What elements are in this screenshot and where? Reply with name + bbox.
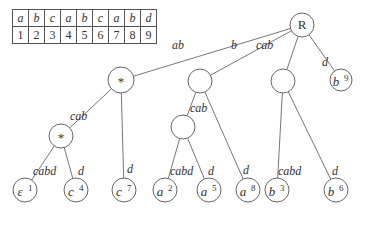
- node-label: b: [269, 184, 276, 199]
- node-superscript: 8: [251, 183, 256, 193]
- node-superscript: 7: [127, 183, 132, 193]
- tree-edge: [211, 31, 292, 75]
- node-superscript: 9: [344, 73, 349, 83]
- edge-label: cab: [256, 38, 273, 52]
- node-superscript: 6: [339, 183, 344, 193]
- tree-edge: [121, 93, 123, 178]
- edge-label: d: [332, 164, 339, 178]
- node-circle: [271, 69, 295, 93]
- edge-label: d: [127, 162, 134, 176]
- internal-node: [171, 115, 195, 139]
- root-node: R: [290, 13, 314, 37]
- edge-label: cab: [190, 101, 207, 115]
- node-circle: [171, 115, 195, 139]
- tree-edge: [287, 36, 298, 69]
- internal-node: *: [108, 67, 134, 93]
- tree-edge: [64, 148, 73, 179]
- leaf-node: c7: [112, 178, 136, 202]
- node-superscript: 4: [79, 183, 84, 193]
- edge-label: cab: [70, 109, 87, 123]
- internal-node: [188, 69, 212, 93]
- edge-label: d: [208, 164, 215, 178]
- node-superscript: 3: [280, 183, 285, 193]
- edge-label: d: [243, 163, 250, 177]
- node-superscript: 5: [212, 183, 217, 193]
- edge-label: cabd: [170, 164, 194, 178]
- edge-label: d: [322, 55, 329, 69]
- leaf-node: ε1: [13, 178, 37, 202]
- internal-node: [271, 69, 295, 93]
- node-label: ε: [17, 184, 23, 199]
- node-label: *: [58, 130, 65, 145]
- node-label: b: [328, 184, 335, 199]
- node-label: R: [298, 17, 307, 32]
- leaf-node: b3: [265, 178, 289, 202]
- edge-label: b: [231, 38, 237, 52]
- node-circle: [188, 69, 212, 93]
- node-label: c: [68, 184, 74, 199]
- leaf-node: a2: [153, 178, 177, 202]
- node-label: a: [240, 184, 247, 199]
- node-label: a: [157, 184, 164, 199]
- node-superscript: 2: [168, 183, 173, 193]
- leaf-node: a8: [236, 178, 260, 202]
- node-label: *: [118, 74, 125, 89]
- leaf-node: c4: [64, 178, 88, 202]
- edge-label: cabd: [278, 164, 302, 178]
- leaf-node: b9: [330, 69, 352, 91]
- node-superscript: 1: [28, 183, 33, 193]
- edge-label: cabd: [33, 164, 57, 178]
- node-label: c: [116, 184, 122, 199]
- leaf-node: b6: [324, 178, 348, 202]
- suffix-tree: abbcabdcabdcabddcabdcabddcabddR*b9*ε1c4c…: [0, 0, 368, 226]
- node-label: a: [201, 184, 208, 199]
- leaf-node: a5: [197, 178, 221, 202]
- edge-label: ab: [172, 38, 184, 52]
- internal-node: *: [49, 124, 73, 148]
- edge-label: d: [78, 164, 85, 178]
- tree-edge: [133, 28, 290, 76]
- node-label: b: [333, 74, 340, 89]
